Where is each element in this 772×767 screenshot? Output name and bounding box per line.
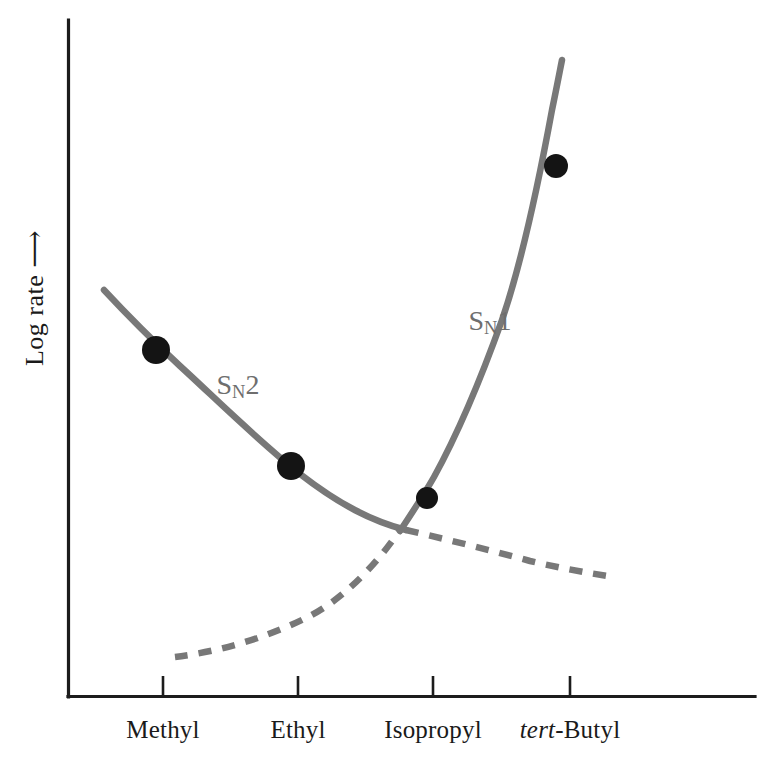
sn2-curve-solid bbox=[104, 290, 406, 530]
y-axis-label-text: Log rate ⟶ bbox=[19, 230, 50, 366]
chart-canvas bbox=[0, 0, 772, 767]
x-tick-label-ethyl: Ethyl bbox=[270, 716, 325, 744]
sn2-curve-dashed bbox=[406, 530, 608, 576]
x-tick-label-methyl: Methyl bbox=[126, 716, 199, 744]
x-tick-label-tert-butyl-italic: tert bbox=[520, 716, 556, 743]
x-tick-label-isopropyl: Isopropyl bbox=[384, 716, 482, 744]
data-point-sn1-isopropyl bbox=[416, 487, 438, 509]
sn1-curve-solid bbox=[400, 60, 562, 531]
data-point-sn2-methyl bbox=[142, 336, 170, 364]
data-point-sn1-tert-butyl bbox=[544, 154, 568, 178]
y-axis-label: Log rate ⟶ bbox=[14, 178, 54, 418]
data-point-sn2-ethyl bbox=[277, 452, 305, 480]
x-tick-label-tert-butyl: tert-Butyl bbox=[520, 716, 621, 744]
curve-label-sn2: SN2 bbox=[217, 369, 260, 404]
sn1-curve-dashed bbox=[175, 527, 402, 657]
figure-container: Log rate ⟶ SN2 SN1 Methyl Ethyl Isopropy… bbox=[0, 0, 772, 767]
curve-label-sn1: SN1 bbox=[469, 305, 512, 340]
x-tick-label-tert-butyl-rest: -Butyl bbox=[555, 716, 620, 743]
